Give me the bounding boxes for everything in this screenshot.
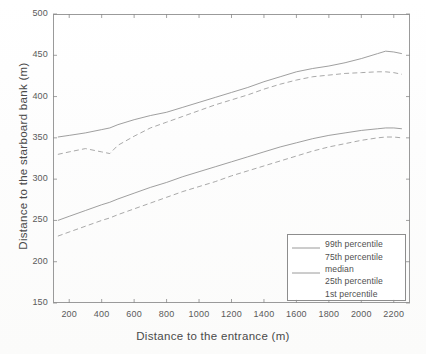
series-line [58, 137, 402, 236]
x-tick-label: 200 [53, 309, 85, 319]
x-tick-label: 600 [118, 309, 150, 319]
legend-line-sample [291, 289, 321, 299]
y-tick-label: 250 [17, 214, 48, 224]
y-tick-label: 350 [17, 132, 48, 142]
legend-line-sample [291, 239, 321, 249]
y-tick-label: 300 [17, 173, 48, 183]
x-tick-label: 1400 [248, 309, 280, 319]
legend-box: 99th percentile 75th percentile median 2… [287, 234, 406, 301]
legend-label: 1st percentile [325, 289, 378, 299]
x-tick-label: 1200 [216, 309, 248, 319]
legend-label: median [325, 264, 354, 274]
x-tick-label: 1800 [313, 309, 345, 319]
y-tick-label: 400 [17, 91, 48, 101]
legend-item: 25th percentile [288, 275, 405, 287]
x-tick-label: 1000 [183, 309, 215, 319]
x-axis-title: Distance to the entrance (m) [0, 330, 426, 342]
y-tick-label: 450 [17, 49, 48, 59]
legend-item: median [288, 263, 405, 275]
series-line [58, 51, 402, 137]
legend-item: 99th percentile [288, 238, 405, 250]
y-tick-label: 150 [17, 297, 48, 307]
series-line [58, 72, 402, 155]
series-line [58, 128, 402, 220]
figure-container: Distance to the starboard bank (m) Dista… [0, 0, 426, 354]
y-tick-label: 500 [17, 8, 48, 18]
legend-line-sample [291, 252, 321, 262]
legend-line-sample [291, 264, 321, 274]
legend-item: 1st percentile [288, 288, 405, 300]
x-tick-label: 800 [151, 309, 183, 319]
legend-item: 75th percentile [288, 250, 405, 262]
legend-label: 25th percentile [325, 276, 383, 286]
x-tick-label: 2000 [345, 309, 377, 319]
y-tick-label: 200 [17, 256, 48, 266]
legend-line-sample [291, 276, 321, 286]
x-tick-label: 2200 [378, 309, 410, 319]
legend-label: 75th percentile [325, 252, 383, 262]
legend-label: 99th percentile [325, 239, 383, 249]
x-tick-label: 400 [86, 309, 118, 319]
x-tick-label: 1600 [280, 309, 312, 319]
